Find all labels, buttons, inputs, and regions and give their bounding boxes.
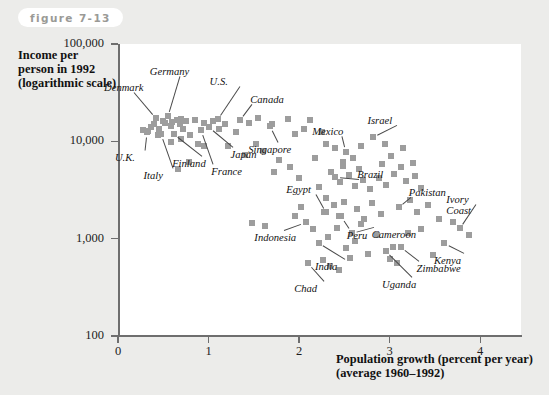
- data-point: [292, 131, 298, 137]
- data-point: [307, 117, 313, 123]
- data-point: [341, 199, 347, 205]
- data-point: [168, 139, 174, 145]
- data-point-italy: [158, 131, 164, 137]
- data-point: [340, 163, 346, 169]
- data-point: [332, 145, 338, 151]
- annotation-india: India: [315, 261, 337, 272]
- annotation-chad: Chad: [294, 283, 317, 294]
- annotation-line: Uganda: [382, 279, 416, 290]
- data-point: [255, 115, 261, 121]
- data-point: [183, 118, 189, 124]
- annotation-line: India: [315, 261, 337, 272]
- data-point-egypt: [323, 209, 329, 215]
- annotation-line: Ivory: [446, 194, 471, 205]
- data-point-u-k-: [144, 129, 150, 135]
- annotation-finland: Finland: [172, 158, 206, 169]
- data-point: [400, 145, 406, 151]
- data-point: [369, 200, 375, 206]
- data-point-u-s-: [215, 116, 221, 122]
- data-point: [233, 129, 239, 135]
- data-point: [391, 171, 397, 177]
- data-point-chad: [305, 260, 311, 266]
- data-point-germany: [165, 113, 171, 119]
- data-point-canada: [237, 117, 243, 123]
- data-point: [323, 195, 329, 201]
- data-point: [323, 141, 329, 147]
- x-tick-label-2: 2: [296, 344, 302, 359]
- annotation-line: Indonesia: [254, 232, 296, 243]
- data-point-denmark: [153, 115, 159, 121]
- data-point: [378, 211, 384, 217]
- x-axis-title: Population growth (percent per year) (av…: [336, 352, 533, 380]
- annotation-line: Germany: [150, 66, 189, 77]
- data-point-france: [198, 127, 204, 133]
- x-tick-1: [208, 336, 209, 343]
- data-point: [412, 173, 418, 179]
- data-point-indonesia: [303, 219, 309, 225]
- annotation-line: France: [211, 166, 242, 177]
- data-point-mexico: [343, 149, 349, 155]
- annotation-line: Israel: [367, 115, 392, 126]
- data-point-ivory-coast: [457, 225, 463, 231]
- figure-number-label: figure 7-13: [30, 12, 111, 24]
- data-point: [390, 244, 396, 250]
- annotation-kenya: Kenya: [434, 255, 461, 266]
- data-point: [192, 117, 198, 123]
- annotation-u-s-: U.S.: [210, 76, 228, 87]
- data-point-japan: [206, 124, 212, 130]
- data-point: [379, 161, 385, 167]
- data-point-peru: [338, 213, 344, 219]
- data-point: [466, 232, 472, 238]
- data-point: [331, 202, 337, 208]
- annotation-line: Cameroon: [372, 229, 416, 240]
- data-point-pakistan: [396, 204, 402, 210]
- data-point: [195, 141, 201, 147]
- annotation-israel: Israel: [367, 115, 392, 126]
- annotation-line: Chad: [294, 283, 317, 294]
- data-point: [418, 226, 424, 232]
- data-point: [410, 160, 416, 166]
- figure-number-pill: figure 7-13: [18, 8, 123, 27]
- data-point: [343, 245, 349, 251]
- annotation-egypt: Egypt: [286, 184, 311, 195]
- annotation-uganda: Uganda: [382, 279, 416, 290]
- x-tick-2: [298, 336, 299, 343]
- data-point: [316, 184, 322, 190]
- annotation-france: France: [211, 166, 242, 177]
- data-point: [180, 126, 186, 132]
- data-point-uganda: [383, 248, 389, 254]
- annotation-brazil: Brazil: [357, 169, 383, 180]
- data-point: [312, 155, 318, 161]
- y-tick-label-100000: 100,000: [0, 36, 108, 51]
- data-point: [354, 206, 360, 212]
- x-axis-title-line-2: (average 1960–1992): [336, 366, 533, 380]
- data-point: [382, 141, 388, 147]
- annotation-line: Finland: [172, 158, 206, 169]
- annotation-line: U.K.: [115, 152, 135, 163]
- annotation-line: Kenya: [434, 255, 461, 266]
- data-point: [352, 183, 358, 189]
- y-axis-title-line-2: person in 1992: [18, 62, 123, 76]
- x-axis-title-line-1: Population growth (percent per year): [336, 352, 533, 366]
- annotation-pakistan: Pakistan: [409, 187, 446, 198]
- data-point: [358, 143, 364, 149]
- y-tick-label-1000: 1,000: [0, 231, 108, 246]
- y-tick-label-100: 100: [0, 328, 108, 343]
- data-point: [262, 223, 268, 229]
- annotation-cameroon: Cameroon: [372, 229, 416, 240]
- data-point: [249, 220, 255, 226]
- data-point: [403, 178, 409, 184]
- annotation-u-k-: U.K.: [115, 152, 135, 163]
- data-point: [436, 216, 442, 222]
- data-point: [337, 179, 343, 185]
- data-point: [287, 164, 293, 170]
- data-point-singapore: [267, 123, 273, 129]
- figure-container: figure 7-13 Income per person in 1992 (l…: [0, 0, 549, 395]
- annotation-line: Singapore: [248, 144, 291, 155]
- data-point: [350, 155, 356, 161]
- data-point-india: [316, 240, 322, 246]
- y-tick-10000: [111, 141, 118, 142]
- data-point: [398, 164, 404, 170]
- data-point: [296, 175, 302, 181]
- annotation-canada: Canada: [250, 94, 284, 105]
